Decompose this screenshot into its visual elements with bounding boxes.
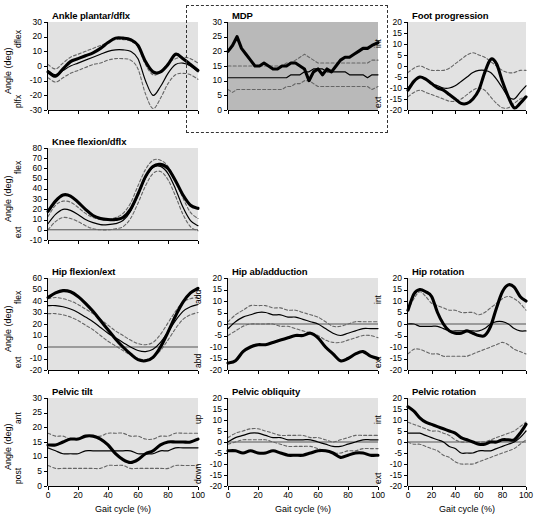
x-axis-line: [408, 486, 526, 487]
y-tick-label: 20: [376, 394, 402, 402]
gait-analysis-figure: Ankle plantar/dflx-30-20-100102030Angle …: [0, 0, 537, 521]
y-direction-label-top: int: [373, 415, 383, 424]
y-tick: [404, 464, 407, 465]
chart-panel-pelvic-rotation: Pelvic rotation-20-15-10-505101520020406…: [0, 0, 537, 521]
y-tick: [404, 398, 407, 399]
y-tick-label: -10: [376, 460, 402, 468]
x-tick-label: 40: [443, 491, 467, 499]
x-tick-label: 60: [467, 491, 491, 499]
chart-title-pelvic-rotation: Pelvic rotation: [412, 386, 476, 397]
y-direction-label-bottom: ext: [373, 473, 383, 484]
series-sd-lower: [408, 440, 526, 464]
y-tick-label: 0: [376, 438, 402, 446]
x-tick-label: 20: [420, 491, 444, 499]
x-tick-label: 100: [514, 491, 537, 499]
y-tick: [404, 486, 407, 487]
x-tick-label: 80: [490, 491, 514, 499]
y-axis-line: [407, 398, 408, 486]
y-tick: [404, 431, 407, 432]
x-tick-label: 0: [396, 491, 420, 499]
x-axis-title: Gait cycle (%): [408, 504, 526, 514]
y-tick: [404, 453, 407, 454]
y-tick: [404, 409, 407, 410]
y-tick-label: 5: [376, 427, 402, 435]
y-tick-label: -5: [376, 449, 402, 457]
y-tick: [404, 442, 407, 443]
y-tick: [404, 475, 407, 476]
y-tick-label: 15: [376, 405, 402, 413]
series-patient: [408, 407, 526, 445]
curves-pelvic-rotation: [408, 398, 526, 486]
plot-area-pelvic-rotation: [408, 398, 526, 486]
y-tick: [404, 420, 407, 421]
